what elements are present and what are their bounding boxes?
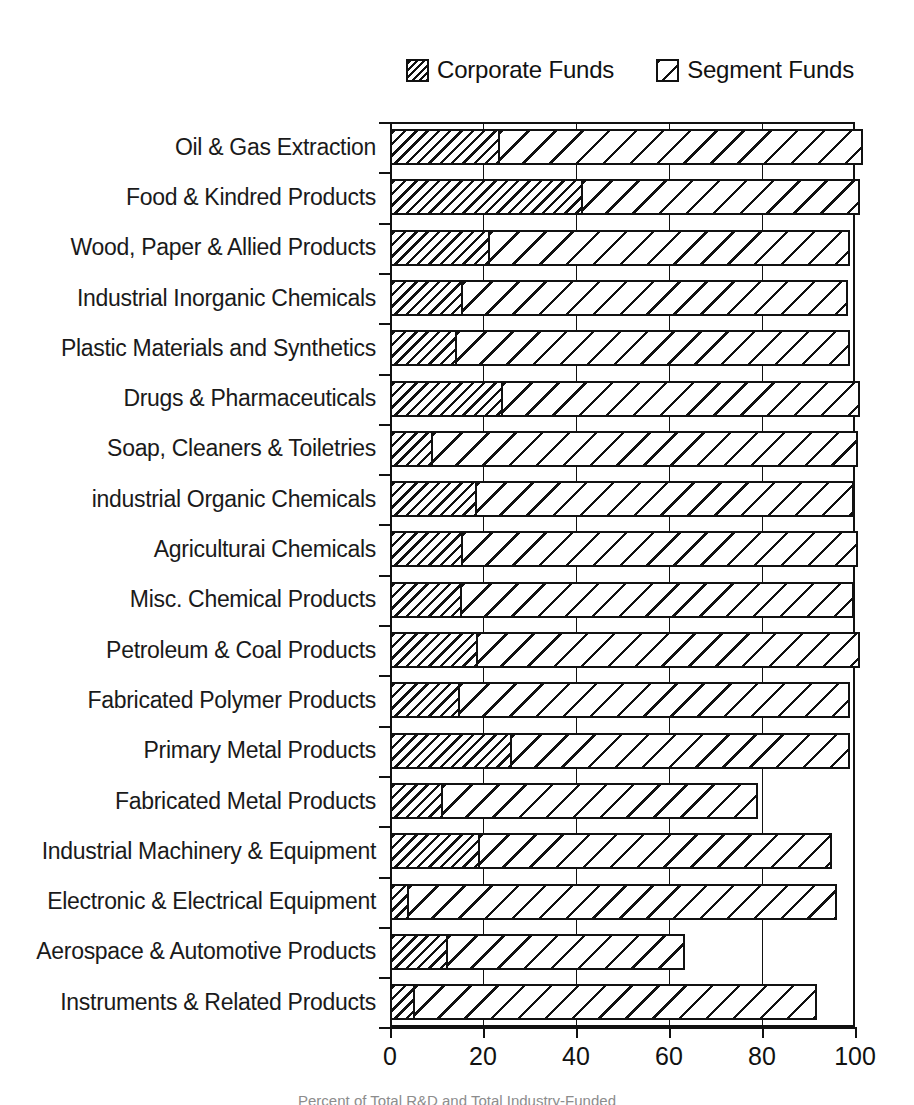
bar-segment-corporate-funds bbox=[390, 884, 409, 920]
legend-label-segment-funds: Segment Funds bbox=[687, 56, 854, 84]
y-axis-tick bbox=[379, 575, 390, 577]
stacked-bar bbox=[390, 783, 758, 819]
category-label: Fabricated Metal Products bbox=[10, 776, 390, 826]
bar-segment-segment-funds bbox=[478, 632, 859, 668]
bar-segment-segment-funds bbox=[409, 884, 837, 920]
bar-row: Food & Kindred Products bbox=[390, 172, 855, 222]
category-label: Plastic Materials and Synthetics bbox=[10, 323, 390, 373]
x-axis-tick-20 bbox=[483, 1027, 485, 1038]
x-axis-tick-label: 60 bbox=[655, 1042, 683, 1071]
stacked-bar bbox=[390, 481, 854, 517]
bar-row: Plastic Materials and Synthetics bbox=[390, 323, 855, 373]
bar-row: Petroleum & Coal Products bbox=[390, 625, 855, 675]
category-label: industrial Organic Chemicals bbox=[10, 474, 390, 524]
chart-legend: Corporate Funds Segment Funds bbox=[0, 56, 914, 84]
bar-row: Industrial Machinery & Equipment bbox=[390, 826, 855, 876]
bar-segment-segment-funds bbox=[463, 531, 858, 567]
bar-segment-corporate-funds bbox=[390, 381, 503, 417]
x-axis-tick-label: 0 bbox=[383, 1042, 397, 1071]
category-label: Oil & Gas Extraction bbox=[10, 122, 390, 172]
stacked-bar bbox=[390, 582, 854, 618]
bar-row: Drugs & Pharmaceuticals bbox=[390, 374, 855, 424]
bar-segment-corporate-funds bbox=[390, 129, 500, 165]
x-axis-tick-label: 80 bbox=[748, 1042, 776, 1071]
bar-segment-corporate-funds bbox=[390, 934, 448, 970]
x-axis-tick-0 bbox=[390, 1027, 392, 1038]
bar-segment-corporate-funds bbox=[390, 280, 463, 316]
category-label: Drugs & Pharmaceuticals bbox=[10, 374, 390, 424]
stacked-bar bbox=[390, 230, 850, 266]
stacked-bar bbox=[390, 632, 860, 668]
y-axis-tick bbox=[379, 776, 390, 778]
bar-row: Primary Metal Products bbox=[390, 726, 855, 776]
stacked-bar bbox=[390, 381, 860, 417]
bar-segment-segment-funds bbox=[462, 582, 854, 618]
y-axis-tick bbox=[379, 927, 390, 929]
x-axis-tick-60 bbox=[669, 1027, 671, 1038]
y-axis-tick bbox=[379, 374, 390, 376]
plot-area: Oil & Gas ExtractionFood & Kindred Produ… bbox=[390, 122, 855, 1027]
bar-segment-corporate-funds bbox=[390, 632, 478, 668]
bar-segment-segment-funds bbox=[443, 783, 758, 819]
bar-segment-segment-funds bbox=[415, 984, 817, 1020]
bar-segment-corporate-funds bbox=[390, 783, 443, 819]
y-axis-tick bbox=[379, 877, 390, 879]
stacked-bar bbox=[390, 330, 850, 366]
stacked-bar bbox=[390, 179, 860, 215]
sparse-hatch-swatch-icon bbox=[656, 59, 679, 82]
stacked-bar bbox=[390, 431, 858, 467]
bar-segment-segment-funds bbox=[503, 381, 860, 417]
bar-segment-corporate-funds bbox=[390, 481, 477, 517]
y-axis-tick bbox=[379, 474, 390, 476]
bar-segment-segment-funds bbox=[460, 682, 851, 718]
x-axis-tick-80 bbox=[762, 1027, 764, 1038]
bar-segment-corporate-funds bbox=[390, 984, 415, 1020]
category-label: Soap, Cleaners & Toiletries bbox=[10, 424, 390, 474]
bar-segment-corporate-funds bbox=[390, 230, 490, 266]
figure-caption: Percent of Total R&D and Total Industry-… bbox=[0, 1092, 914, 1105]
stacked-bar bbox=[390, 884, 837, 920]
bar-segment-segment-funds bbox=[477, 481, 854, 517]
bar-segment-corporate-funds bbox=[390, 733, 512, 769]
stacked-bar bbox=[390, 733, 850, 769]
bar-row: Agriculturai Chemicals bbox=[390, 524, 855, 574]
bar-segment-segment-funds bbox=[500, 129, 863, 165]
bar-row: Fabricated Polymer Products bbox=[390, 675, 855, 725]
y-axis-tick bbox=[379, 826, 390, 828]
bar-segment-corporate-funds bbox=[390, 582, 462, 618]
y-axis-tick bbox=[379, 273, 390, 275]
bar-segment-corporate-funds bbox=[390, 682, 460, 718]
bar-row: Instruments & Related Products bbox=[390, 977, 855, 1027]
category-label: Instruments & Related Products bbox=[10, 977, 390, 1027]
y-axis-tick bbox=[379, 424, 390, 426]
y-axis-tick bbox=[379, 1027, 390, 1029]
x-axis-tick-label: 100 bbox=[834, 1042, 876, 1071]
bar-segment-segment-funds bbox=[490, 230, 850, 266]
bar-segment-corporate-funds bbox=[390, 330, 457, 366]
bar-row: Wood, Paper & Allied Products bbox=[390, 223, 855, 273]
chart-canvas: Corporate Funds Segment Funds Oil & Gas … bbox=[0, 0, 914, 1105]
bar-segment-corporate-funds bbox=[390, 431, 433, 467]
y-axis-tick bbox=[379, 977, 390, 979]
y-axis-tick bbox=[379, 524, 390, 526]
bar-segment-segment-funds bbox=[480, 833, 832, 869]
x-axis-tick-label: 20 bbox=[469, 1042, 497, 1071]
category-label: Electronic & Electrical Equipment bbox=[10, 877, 390, 927]
stacked-bar bbox=[390, 129, 863, 165]
stacked-bar bbox=[390, 833, 832, 869]
y-axis-tick bbox=[379, 675, 390, 677]
bar-segment-segment-funds bbox=[457, 330, 850, 366]
y-axis-tick bbox=[379, 625, 390, 627]
stacked-bar bbox=[390, 934, 685, 970]
bar-segment-segment-funds bbox=[433, 431, 858, 467]
bar-row: Oil & Gas Extraction bbox=[390, 122, 855, 172]
y-axis-tick bbox=[379, 323, 390, 325]
bar-row: Fabricated Metal Products bbox=[390, 776, 855, 826]
category-label: Misc. Chemical Products bbox=[10, 575, 390, 625]
stacked-bar bbox=[390, 682, 850, 718]
y-axis-tick bbox=[379, 726, 390, 728]
category-label: Petroleum & Coal Products bbox=[10, 625, 390, 675]
bar-segment-segment-funds bbox=[512, 733, 850, 769]
category-label: Agriculturai Chemicals bbox=[10, 524, 390, 574]
bar-row: Soap, Cleaners & Toiletries bbox=[390, 424, 855, 474]
